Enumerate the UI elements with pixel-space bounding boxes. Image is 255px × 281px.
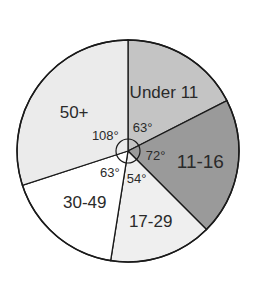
angle-label: 108° [92, 128, 119, 143]
slice-label: 30-49 [63, 193, 106, 212]
angle-label: 54° [127, 171, 147, 186]
angle-label: 72° [146, 148, 166, 163]
angle-label: 63° [133, 120, 153, 135]
slice-label: 11-16 [177, 151, 224, 172]
slice-label: 17-29 [129, 212, 172, 231]
pie-chart: Under 1163°11-1672°17-2954°30-4963°50+10… [0, 0, 255, 281]
slice-label: 50+ [60, 103, 89, 122]
angle-label: 63° [100, 165, 120, 180]
slice-label: Under 11 [130, 83, 199, 102]
